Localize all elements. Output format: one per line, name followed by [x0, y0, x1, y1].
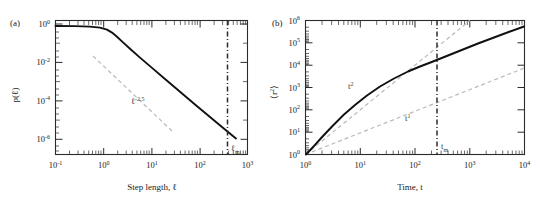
panel-a: (a) p(ℓ) Step length, ℓ	[0, 0, 271, 198]
panel-a-power-law-annotation: ℓ-2.5	[131, 96, 145, 107]
svg-text:102: 102	[409, 160, 421, 171]
panel-a-power-law-guide	[93, 56, 172, 131]
svg-text:101: 101	[146, 160, 158, 171]
panel-b-x-minor-ticks	[322, 21, 522, 156]
panel-a-y-axis-label: p(ℓ)	[10, 88, 20, 103]
panel-b-msd-curve	[306, 27, 524, 155]
panel-a-x-major-ticks	[56, 21, 248, 156]
panel-b-diffusive-annotation: t1	[405, 113, 410, 124]
panel-a-svg: (a) p(ℓ) Step length, ℓ	[0, 0, 271, 198]
svg-text:106: 106	[289, 15, 301, 26]
panel-b-x-axis-label: Time, t	[397, 182, 423, 192]
svg-text:102: 102	[289, 104, 301, 115]
svg-text:⟨r2⟩: ⟨r2⟩	[270, 85, 279, 99]
svg-text:103: 103	[289, 82, 301, 93]
panel-a-y-minor-ticks	[56, 32, 248, 151]
svg-text:10-1: 10-1	[49, 160, 63, 171]
panel-a-distribution-curve	[56, 26, 237, 138]
panel-a-plot-frame	[56, 21, 248, 155]
panel-a-label: (a)	[10, 18, 20, 28]
svg-text:100: 100	[289, 149, 301, 160]
svg-text:102: 102	[194, 160, 206, 171]
panel-b-label: (b)	[272, 18, 283, 28]
svg-text:104: 104	[519, 160, 531, 171]
panel-b-diffusive-guide	[306, 68, 525, 155]
panel-b-plot-frame	[306, 21, 525, 155]
svg-text:100: 100	[300, 160, 312, 171]
svg-text:101: 101	[355, 160, 367, 171]
panel-a-cutoff-annotation: ℓm	[231, 143, 240, 155]
svg-text:10-6: 10-6	[37, 134, 51, 145]
svg-text:10-4: 10-4	[37, 95, 51, 106]
panel-b-x-major-ticks	[306, 21, 525, 156]
panel-a-y-tick-labels: 100 10-2 10-4 10-6	[37, 19, 51, 145]
svg-text:p(ℓ): p(ℓ)	[10, 88, 20, 103]
svg-text:104: 104	[289, 60, 301, 71]
panel-b: (b) ⟨r2⟩ Time, t	[270, 0, 541, 198]
svg-text:100: 100	[39, 19, 51, 30]
svg-text:101: 101	[289, 127, 301, 138]
svg-text:10-2: 10-2	[37, 57, 51, 68]
panel-b-svg: (b) ⟨r2⟩ Time, t	[270, 0, 541, 198]
panel-b-crossover-annotation: tm	[441, 141, 448, 153]
panel-b-y-major-ticks	[306, 21, 525, 155]
figure-container: (a) p(ℓ) Step length, ℓ	[0, 0, 541, 198]
panel-a-x-axis-label: Step length, ℓ	[127, 182, 177, 192]
svg-text:105: 105	[289, 37, 301, 48]
panel-b-y-axis-label: ⟨r2⟩	[270, 85, 279, 99]
panel-a-x-minor-ticks	[70, 21, 246, 156]
panel-b-ballistic-guide	[306, 21, 470, 155]
panel-a-x-tick-labels: 10-1 100 101 102 103	[49, 160, 254, 171]
panel-a-y-major-ticks	[56, 24, 248, 139]
panel-b-y-tick-labels: 106 105 104 103 102 101 100	[289, 15, 301, 160]
svg-text:100: 100	[98, 160, 110, 171]
svg-text:103: 103	[242, 160, 254, 171]
panel-b-x-tick-labels: 100 101 102 103 104	[300, 160, 531, 171]
svg-text:103: 103	[464, 160, 476, 171]
panel-b-ballistic-annotation: t2	[348, 81, 353, 92]
